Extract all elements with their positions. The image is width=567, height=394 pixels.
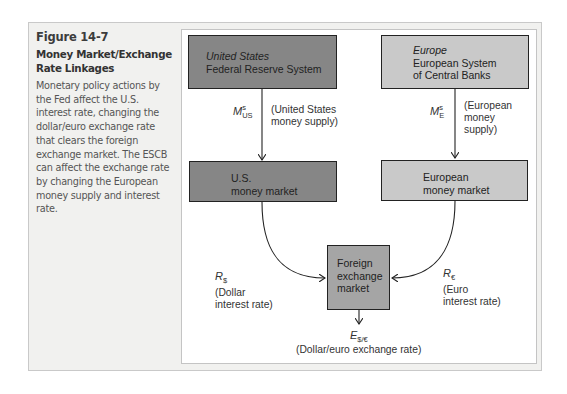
eu-money-supply-symbol: MsE — [430, 104, 444, 120]
fx-market-line3: market — [337, 282, 389, 295]
us-money-market-line1: U.S. — [231, 172, 336, 185]
eu-money-supply-desc-3: supply) — [464, 124, 512, 136]
us-central-bank-name: Federal Reserve System — [206, 63, 336, 76]
us-region-label: United States — [206, 50, 336, 63]
euro-interest-rate-label: R€ (Euro interest rate) — [443, 267, 501, 308]
symbol-m: M — [430, 105, 439, 117]
us-money-supply-desc-2: money supply) — [271, 116, 338, 128]
dollar-rate-desc-1: (Dollar — [215, 287, 273, 299]
eu-central-bank-name-1: European System — [413, 57, 528, 70]
foreign-exchange-market-box: Foreign exchange market — [327, 245, 390, 310]
dollar-rate-symbol: R$ — [215, 270, 273, 287]
eu-central-bank-name-2: of Central Banks — [413, 69, 528, 82]
sub-euro: € — [451, 273, 455, 282]
eu-money-supply-desc: (European money supply) — [464, 100, 512, 136]
eu-region-label: Europe — [413, 44, 528, 57]
us-federal-reserve-box: United States Federal Reserve System — [188, 35, 337, 89]
arrow-dollar-rate — [262, 202, 325, 278]
exchange-rate-symbol: E$/€ — [350, 329, 368, 344]
us-money-market-box: U.S. money market — [189, 161, 337, 202]
euro-rate-desc-1: (Euro — [443, 284, 501, 296]
us-money-supply-desc-1: (United States — [271, 104, 338, 116]
eu-money-market-line2: money market — [423, 184, 527, 197]
sub-dollar: $ — [223, 276, 227, 285]
euro-rate-desc-2: interest rate) — [443, 296, 501, 308]
sub-dollar-euro: $/€ — [357, 335, 367, 344]
symbol-r: R — [215, 270, 223, 282]
us-money-supply-symbol: MsUS — [233, 104, 253, 120]
exchange-rate-desc: (Dollar/euro exchange rate) — [296, 344, 421, 356]
fx-market-line1: Foreign — [337, 257, 389, 270]
euro-rate-symbol: R€ — [443, 267, 501, 284]
eu-central-bank-box: Europe European System of Central Banks — [381, 35, 529, 89]
us-money-market-line2: money market — [231, 185, 336, 198]
eu-money-market-box: European money market — [381, 160, 528, 201]
dollar-rate-desc-2: interest rate) — [215, 299, 273, 311]
us-money-supply-desc: (United States money supply) — [271, 104, 338, 128]
fx-market-line2: exchange — [337, 270, 389, 283]
eu-money-supply-desc-2: money — [464, 112, 512, 124]
sub-us: US — [242, 112, 252, 120]
eu-money-market-line1: European — [423, 171, 527, 184]
symbol-m: M — [233, 105, 242, 117]
sub-e: E — [439, 112, 444, 120]
symbol-r: R — [443, 267, 451, 279]
dollar-interest-rate-label: R$ (Dollar interest rate) — [215, 270, 273, 311]
eu-money-supply-desc-1: (European — [464, 100, 512, 112]
